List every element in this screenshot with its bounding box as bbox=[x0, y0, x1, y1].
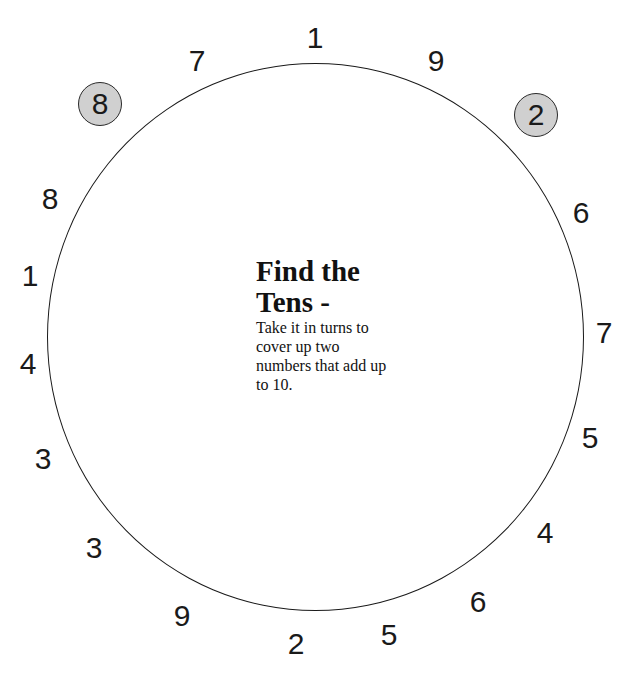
instructions-text: Take it in turns to cover up two numbers… bbox=[256, 318, 396, 394]
ring-number[interactable]: 7 bbox=[596, 318, 613, 348]
game-title: Find the Tens - bbox=[256, 256, 396, 318]
ring-number[interactable]: 5 bbox=[381, 620, 398, 650]
ring-number[interactable]: 7 bbox=[189, 46, 206, 76]
ring-number[interactable]: 3 bbox=[86, 533, 103, 563]
ring-number[interactable]: 5 bbox=[582, 423, 599, 453]
ring-number[interactable]: 4 bbox=[537, 518, 554, 548]
ring-number[interactable]: 3 bbox=[35, 444, 52, 474]
ring-number[interactable]: 1 bbox=[307, 23, 324, 53]
title-line-2: Tens - bbox=[256, 286, 330, 318]
ring-number[interactable]: 9 bbox=[174, 601, 191, 631]
counter-token[interactable]: 8 bbox=[78, 82, 122, 126]
title-line-1: Find the bbox=[256, 255, 360, 287]
ring-number[interactable]: 8 bbox=[42, 184, 59, 214]
ring-number[interactable]: 6 bbox=[470, 587, 487, 617]
ring-number[interactable]: 9 bbox=[428, 46, 445, 76]
ring-number[interactable]: 6 bbox=[573, 198, 590, 228]
counter-token[interactable]: 2 bbox=[514, 93, 558, 137]
ring-number[interactable]: 4 bbox=[20, 349, 37, 379]
ring-number[interactable]: 2 bbox=[288, 629, 305, 659]
game-board: Find the Tens - Take it in turns to cove… bbox=[0, 0, 632, 678]
ring-number[interactable]: 1 bbox=[22, 261, 39, 291]
instructions-panel: Find the Tens - Take it in turns to cove… bbox=[256, 256, 396, 394]
